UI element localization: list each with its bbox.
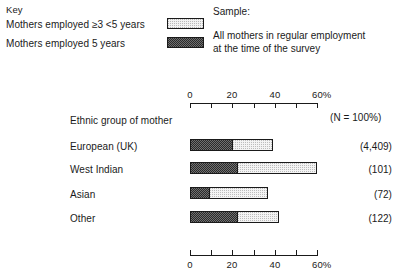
bar-segment-light-west-indian bbox=[238, 163, 316, 173]
tick-40 bbox=[275, 103, 276, 108]
bar-segment-dark-asian bbox=[191, 188, 210, 198]
tick-bottom-0 bbox=[190, 250, 191, 255]
bar-row-west-indian: West Indian (101) bbox=[0, 160, 399, 180]
axis-top: 0 20 40 60% bbox=[190, 103, 318, 104]
tick-60 bbox=[317, 103, 318, 108]
bar-segment-light-asian bbox=[210, 188, 267, 198]
n-value-asian: (72) bbox=[330, 189, 392, 200]
bar-asian bbox=[190, 187, 268, 199]
bar-label-other: Other bbox=[70, 213, 95, 224]
bar-segment-dark-west-indian bbox=[191, 163, 238, 173]
n-value-european: (4,409) bbox=[330, 141, 392, 152]
bar-european bbox=[190, 139, 273, 151]
tick-10 bbox=[211, 103, 212, 108]
bar-segment-dark-other bbox=[191, 212, 238, 222]
tick-bottom-30 bbox=[254, 250, 255, 255]
ticklabel-60: 60% bbox=[312, 89, 331, 100]
category-column-header: Ethnic group of mother bbox=[70, 115, 172, 126]
n-value-other: (122) bbox=[330, 213, 392, 224]
bar-label-european: European (UK) bbox=[70, 141, 137, 152]
tick-bottom-50 bbox=[296, 250, 297, 255]
ticklabel-20: 20 bbox=[227, 89, 238, 100]
tick-bottom-60 bbox=[317, 250, 318, 255]
tick-0 bbox=[190, 103, 191, 108]
ticklabel-bottom-0: 0 bbox=[187, 259, 192, 270]
tick-50 bbox=[296, 103, 297, 108]
stacked-bar-chart: 0 20 40 60% 0 20 40 60% Ethnic group of … bbox=[0, 0, 399, 273]
chart-page: Key Mothers employed ≥3 <5 years Mothers… bbox=[0, 0, 399, 273]
tick-bottom-20 bbox=[232, 250, 233, 255]
axis-bottom: 0 20 40 60% bbox=[190, 255, 318, 256]
ticklabel-bottom-60: 60% bbox=[312, 259, 331, 270]
ticklabel-0: 0 bbox=[187, 89, 192, 100]
n-column-header: (N = 100%) bbox=[330, 112, 381, 123]
ticklabel-bottom-40: 40 bbox=[270, 259, 281, 270]
bar-segment-dark-european bbox=[191, 140, 233, 150]
tick-bottom-10 bbox=[211, 250, 212, 255]
bar-segment-light-other bbox=[238, 212, 278, 222]
bar-other bbox=[190, 211, 279, 223]
bar-segment-light-european bbox=[233, 140, 271, 150]
tick-30 bbox=[254, 103, 255, 108]
bar-row-asian: Asian (72) bbox=[0, 185, 399, 205]
bar-label-asian: Asian bbox=[70, 189, 95, 200]
n-value-west-indian: (101) bbox=[330, 164, 392, 175]
bar-row-european: European (UK) (4,409) bbox=[0, 137, 399, 157]
ticklabel-40: 40 bbox=[270, 89, 281, 100]
tick-20 bbox=[232, 103, 233, 108]
bar-row-other: Other (122) bbox=[0, 209, 399, 229]
tick-bottom-40 bbox=[275, 250, 276, 255]
bar-label-west-indian: West Indian bbox=[70, 164, 123, 175]
ticklabel-bottom-20: 20 bbox=[227, 259, 238, 270]
bar-west-indian bbox=[190, 162, 317, 174]
